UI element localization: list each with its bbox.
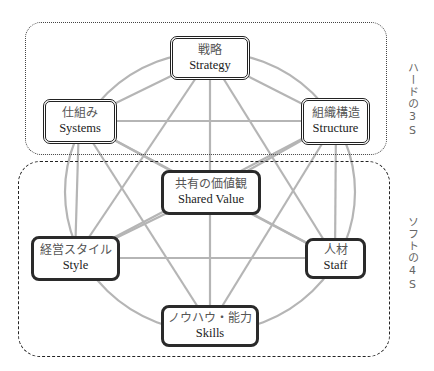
node-label-en: Strategy (189, 58, 231, 74)
node-shared-value: 共有の価値観 Shared Value (161, 170, 261, 215)
node-label-en: Style (63, 258, 89, 274)
node-label-en: Structure (313, 121, 359, 137)
node-label-en: Skills (196, 326, 225, 342)
node-staff: 人材 Staff (305, 238, 366, 279)
node-skills: ノウハウ・能力 Skills (161, 305, 259, 347)
node-label-jp: 経営スタイル (40, 243, 112, 258)
node-label-en: Staff (323, 258, 347, 274)
node-label-jp: ノウハウ・能力 (168, 311, 252, 326)
node-style: 経営スタイル Style (31, 236, 120, 281)
node-systems: 仕組み Systems (43, 99, 117, 144)
node-strategy: 戦略 Strategy (170, 36, 250, 80)
seven-s-diagram: 戦略 Strategy 仕組み Systems 組織構造 Structure 共… (0, 0, 434, 371)
node-label-jp: 組織構造 (312, 106, 360, 121)
node-label-jp: 仕組み (62, 106, 98, 121)
node-label-en: Systems (59, 121, 101, 137)
hard-3s-label: ハードの3S (404, 62, 420, 138)
node-label-jp: 戦略 (198, 43, 222, 58)
node-label-jp: 人材 (324, 243, 348, 258)
node-label-jp: 共有の価値観 (175, 177, 247, 192)
node-structure: 組織構造 Structure (301, 98, 370, 145)
node-label-en: Shared Value (178, 192, 244, 208)
soft-4s-label: ソフトの4S (404, 216, 420, 292)
